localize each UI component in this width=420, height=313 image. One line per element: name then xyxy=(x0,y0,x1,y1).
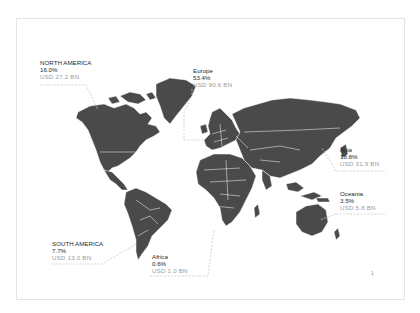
region-label-south-america: SOUTH AMERICA 7.7% USD 13.0 BN xyxy=(52,240,103,262)
region-share: 18.8% xyxy=(340,153,379,160)
region-name: SOUTH AMERICA xyxy=(52,240,103,247)
region-name: NORTH AMERICA xyxy=(40,59,91,66)
region-label-africa: Africa 0.6% USD 1.0 BN xyxy=(152,253,188,275)
region-share: 53.4% xyxy=(193,74,232,81)
region-name: Asia xyxy=(340,146,379,153)
region-share: 0.6% xyxy=(152,260,188,267)
oceania-landmass[interactable] xyxy=(296,198,340,240)
region-label-asia: Asia 18.8% USD 31.9 BN xyxy=(340,146,379,168)
region-label-oceania: Oceania 3.5% USD 5.8 BN xyxy=(340,190,376,212)
region-share: 3.5% xyxy=(340,197,376,204)
region-value: USD 5.8 BN xyxy=(340,204,376,211)
region-label-north-america: NORTH AMERICA 16.0% USD 27.2 BN xyxy=(40,59,91,81)
north-america-landmass[interactable] xyxy=(76,78,196,190)
region-label-europe: Europe 53.4% USD 90.6 BN xyxy=(193,67,232,89)
leader-oceania xyxy=(320,214,386,220)
region-value: USD 27.2 BN xyxy=(40,73,91,80)
region-share: 7.7% xyxy=(52,247,103,254)
region-name: Africa xyxy=(152,253,188,260)
region-name: Europe xyxy=(193,67,232,74)
region-share: 16.0% xyxy=(40,66,91,73)
region-value: USD 1.0 BN xyxy=(152,267,188,274)
region-value: USD 90.6 BN xyxy=(193,81,232,88)
region-name: Oceania xyxy=(340,190,376,197)
page-marker: 1 xyxy=(371,270,374,276)
region-value: USD 13.0 BN xyxy=(52,254,103,261)
region-value: USD 31.9 BN xyxy=(340,160,379,167)
south-america-landmass[interactable] xyxy=(124,188,172,260)
